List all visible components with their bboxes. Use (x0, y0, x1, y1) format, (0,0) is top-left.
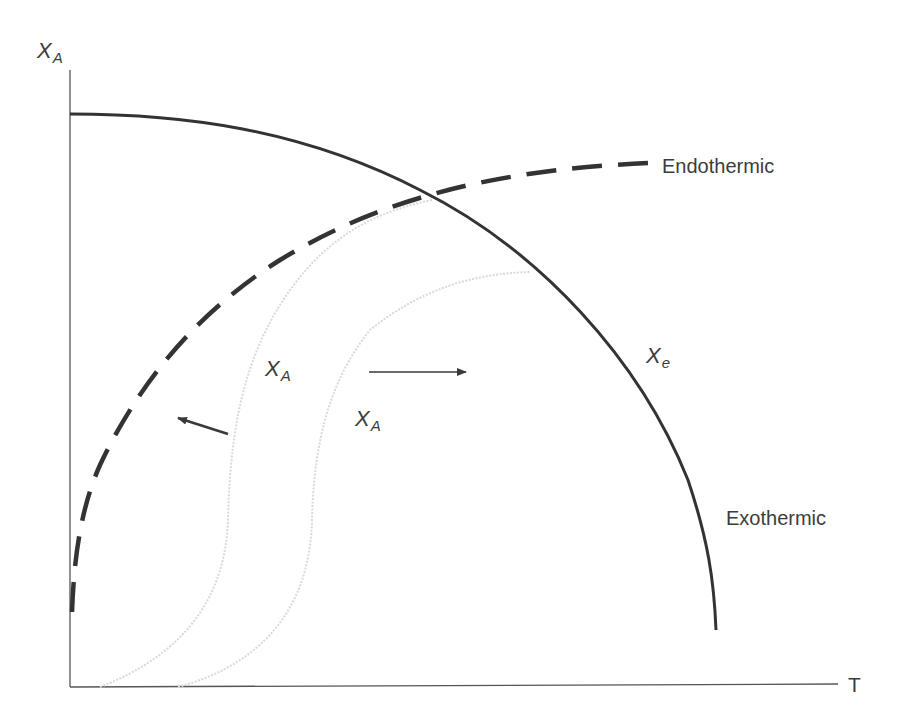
endothermic-equilibrium-curve (72, 163, 650, 612)
y-axis-label-sub: A (53, 49, 63, 66)
xa2-label-main: X (355, 406, 370, 431)
xe-label-sub: e (662, 354, 670, 371)
y-axis-label: XA (37, 40, 63, 65)
rate-curve-2 (178, 272, 530, 687)
rate-curve-2-label: XA (355, 408, 381, 433)
xa1-label-main: X (265, 356, 280, 381)
endothermic-label: Endothermic (662, 156, 774, 176)
arrow-left (178, 418, 228, 434)
diagram-canvas (0, 0, 898, 728)
xe-label: Xe (646, 345, 670, 370)
x-axis-label: T (848, 674, 861, 695)
rate-curve-1 (100, 200, 432, 687)
xe-label-main: X (646, 343, 661, 368)
exothermic-label: Exothermic (726, 508, 826, 528)
y-axis-label-main: X (37, 38, 52, 63)
xa1-label-sub: A (281, 367, 291, 384)
xa2-label-sub: A (371, 417, 381, 434)
rate-curve-1-label: XA (265, 358, 291, 383)
